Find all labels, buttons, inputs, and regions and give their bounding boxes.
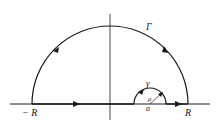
label-big-arc: Γ xyxy=(145,21,152,32)
label-r: R xyxy=(184,107,191,118)
arrow-right-segment-right-icon xyxy=(175,101,182,107)
label-rho: ρ xyxy=(147,95,152,103)
arrow-small-arc-icon xyxy=(138,89,144,95)
label-a: a xyxy=(146,104,150,113)
label-minus-r: − R xyxy=(22,107,37,118)
label-small-arc: γ xyxy=(146,78,150,88)
arrow-right-segment-left-icon xyxy=(73,101,80,107)
contour-diagram: Γ γ − R R ρ a xyxy=(0,0,220,122)
